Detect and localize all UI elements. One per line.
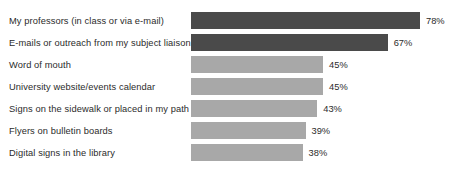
chart-row: University website/events calendar45% — [0, 76, 452, 98]
bar-track: 43% — [191, 98, 452, 120]
horizontal-bar-chart: My professors (in class or via e-mail)78… — [0, 0, 452, 171]
category-label: University website/events calendar — [9, 76, 155, 98]
chart-row: Signs on the sidewalk or placed in my pa… — [0, 98, 452, 120]
chart-row: Word of mouth45% — [0, 54, 452, 76]
value-label: 43% — [323, 98, 342, 120]
bar — [191, 144, 303, 161]
category-label: Signs on the sidewalk or placed in my pa… — [9, 98, 189, 120]
chart-row: My professors (in class or via e-mail)78… — [0, 10, 452, 32]
bar — [191, 100, 317, 117]
category-label: E-mails or outreach from my subject liai… — [9, 32, 191, 54]
value-label: 39% — [312, 120, 331, 142]
bar — [191, 34, 388, 51]
value-label: 45% — [329, 54, 348, 76]
chart-row: E-mails or outreach from my subject liai… — [0, 32, 452, 54]
category-label: Digital signs in the library — [9, 142, 115, 164]
bar — [191, 56, 323, 73]
value-label: 38% — [309, 142, 328, 164]
category-label: Word of mouth — [9, 54, 71, 76]
bar — [191, 78, 323, 95]
bar-track: 38% — [191, 142, 452, 164]
bar-track: 45% — [191, 76, 452, 98]
bar — [191, 12, 420, 29]
category-label: Flyers on bulletin boards — [9, 120, 113, 142]
chart-rows: My professors (in class or via e-mail)78… — [0, 10, 452, 164]
bar-track: 45% — [191, 54, 452, 76]
value-label: 45% — [329, 76, 348, 98]
category-label: My professors (in class or via e-mail) — [9, 10, 164, 32]
value-label: 67% — [394, 32, 413, 54]
value-label: 78% — [426, 10, 445, 32]
chart-row: Flyers on bulletin boards39% — [0, 120, 452, 142]
bar-track: 39% — [191, 120, 452, 142]
bar — [191, 122, 306, 139]
bar-track: 67% — [191, 32, 452, 54]
bar-track: 78% — [191, 10, 452, 32]
chart-row: Digital signs in the library38% — [0, 142, 452, 164]
